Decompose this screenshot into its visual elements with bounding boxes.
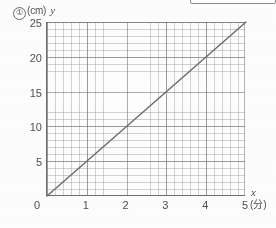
graph-figure: ① (cm) y 25 20 15 10 5 0 1 2 3 4 5 x (分) (0, 0, 276, 228)
x-axis-variable-label: x (251, 186, 256, 198)
plot-area (46, 22, 245, 196)
y-unit-text: (cm) (27, 6, 46, 16)
cropped-answer-box (190, 0, 276, 4)
x-axis-tick-labels: 1 2 3 4 5 (46, 200, 245, 218)
y-tick-label: 5 (12, 157, 42, 168)
x-tick-label: 3 (154, 200, 176, 211)
data-line-proportional (47, 22, 246, 196)
x-tick-label: 4 (194, 200, 216, 211)
origin-label: 0 (34, 200, 40, 211)
x-tick-label: 2 (115, 200, 137, 211)
y-tick-label: 10 (12, 122, 42, 133)
y-axis-tick-labels: 25 20 15 10 5 (10, 22, 42, 196)
y-tick-label: 15 (12, 88, 42, 99)
y-axis-variable-label: y (50, 5, 55, 16)
y-tick-label: 25 (12, 18, 42, 29)
x-unit-text: (分) (250, 200, 267, 210)
x-tick-label: 1 (75, 200, 97, 211)
y-tick-label: 20 (12, 53, 42, 64)
